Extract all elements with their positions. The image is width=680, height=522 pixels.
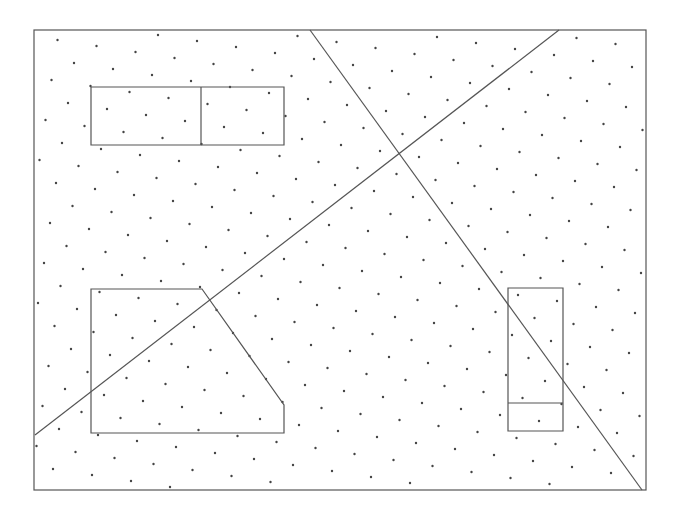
lattice-dot	[640, 272, 642, 274]
lattice-dot	[632, 455, 634, 457]
lattice-dot	[77, 165, 79, 167]
lattice-dot	[638, 415, 640, 417]
lattice-dot	[641, 129, 643, 131]
lattice-dot	[82, 268, 84, 270]
lattice-dot	[194, 183, 196, 185]
lattice-dot	[574, 180, 576, 182]
lattice-dot	[106, 108, 108, 110]
lattice-dot	[305, 241, 307, 243]
lattice-dot	[379, 150, 381, 152]
lattice-dot	[362, 127, 364, 129]
lattice-dot	[148, 360, 150, 362]
lattice-dot	[76, 308, 78, 310]
lattice-dot	[154, 320, 156, 322]
lattice-dot	[631, 66, 633, 68]
lattice-dot	[391, 70, 393, 72]
lattice-dot	[292, 464, 294, 466]
lattice-dot	[53, 325, 55, 327]
lattice-dot	[475, 42, 477, 44]
lattice-dot	[245, 109, 247, 111]
lattice-dot	[484, 248, 486, 250]
lattice-dot	[623, 249, 625, 251]
lattice-dot	[350, 207, 352, 209]
lattice-dot	[160, 280, 162, 282]
lattice-dot	[328, 224, 330, 226]
lattice-dot	[547, 94, 549, 96]
lattice-dot	[88, 228, 90, 230]
lattice-dot	[332, 327, 334, 329]
lattice-dot	[170, 343, 172, 345]
lattice-dot	[311, 201, 313, 203]
lattice-dot	[395, 173, 397, 175]
lattice-dot	[541, 134, 543, 136]
lattice-dot	[253, 458, 255, 460]
lattice-dot	[116, 171, 118, 173]
lattice-dot	[242, 395, 244, 397]
lattice-dot	[284, 115, 286, 117]
lattice-dot	[262, 132, 264, 134]
lattice-dot	[71, 205, 73, 207]
lattice-dot	[44, 119, 46, 121]
lattice-dot	[344, 247, 346, 249]
lattice-dot	[511, 334, 513, 336]
lattice-dot	[323, 121, 325, 123]
lattice-dot	[407, 93, 409, 95]
lattice-dot	[151, 74, 153, 76]
lattice-dot	[431, 465, 433, 467]
lattice-dot	[139, 154, 141, 156]
lattice-dot	[74, 451, 76, 453]
lattice-dot	[214, 452, 216, 454]
lattice-dot	[295, 178, 297, 180]
lattice-dot	[499, 414, 501, 416]
lattice-dot	[35, 445, 37, 447]
lattice-dot	[470, 471, 472, 473]
lattice-dot	[430, 76, 432, 78]
lattice-dot	[353, 453, 355, 455]
lattice-dot	[436, 36, 438, 38]
lattice-dot	[473, 185, 475, 187]
lattice-dot	[505, 374, 507, 376]
lattice-dot	[268, 92, 270, 94]
lattice-dot	[283, 258, 285, 260]
lattice-dot	[212, 63, 214, 65]
lattice-dot	[115, 314, 117, 316]
lattice-dot	[337, 430, 339, 432]
lattice-dot	[184, 120, 186, 122]
lattice-dot	[454, 448, 456, 450]
lattice-dot	[532, 460, 534, 462]
lattice-dot	[592, 60, 594, 62]
lattice-dot	[70, 348, 72, 350]
lattice-dot	[206, 103, 208, 105]
lattice-dot	[197, 429, 199, 431]
lattice-dot	[544, 380, 546, 382]
lattice-dot	[278, 155, 280, 157]
lattice-dot	[260, 275, 262, 277]
lattice-dot	[400, 276, 402, 278]
lattice-dot	[65, 245, 67, 247]
lattice-dot	[203, 389, 205, 391]
lattice-dot	[119, 417, 121, 419]
lattice-dot	[223, 126, 225, 128]
lattice-dot	[580, 140, 582, 142]
lattice-dot	[304, 384, 306, 386]
lattice-dot	[166, 240, 168, 242]
lattice-dot	[256, 172, 258, 174]
lattice-dot	[176, 303, 178, 305]
lattice-dot	[410, 339, 412, 341]
lattice-dot	[512, 191, 514, 193]
lattice-dot	[329, 81, 331, 83]
lattice-dot	[196, 40, 198, 42]
lattice-dot	[298, 424, 300, 426]
lattice-dot	[97, 434, 99, 436]
lattice-dot	[566, 363, 568, 365]
lattice-dot	[524, 111, 526, 113]
lattice-dot	[551, 197, 553, 199]
lattice-dot	[52, 468, 54, 470]
lattice-dot	[340, 144, 342, 146]
lattice-dot	[182, 263, 184, 265]
lattice-dot	[331, 470, 333, 472]
lattice-dot	[296, 35, 298, 37]
lattice-dot	[490, 208, 492, 210]
lattice-dot	[230, 475, 232, 477]
lattice-dot	[586, 100, 588, 102]
